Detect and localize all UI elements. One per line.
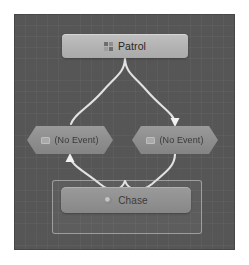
edge-patrol-to-event-right [125, 58, 175, 124]
event-icon [41, 137, 50, 144]
event-icon [146, 137, 155, 144]
graph-node-chase-selection-frame: Chase [52, 180, 202, 234]
screenshot-root: Patrol (No Event) (No Event) Chase [0, 0, 249, 265]
arrowhead-up-event-left [66, 153, 75, 162]
graph-node-patrol[interactable]: Patrol [62, 34, 188, 58]
graph-node-chase-label: Chase [118, 195, 147, 206]
state-machine-graph-canvas[interactable]: Patrol (No Event) (No Event) Chase [14, 14, 235, 250]
grid-icon [104, 42, 113, 51]
sphere-icon [104, 196, 113, 205]
graph-node-event-left[interactable]: (No Event) [27, 126, 113, 154]
graph-node-chase[interactable]: Chase [61, 187, 191, 213]
graph-node-event-right[interactable]: (No Event) [132, 126, 218, 154]
graph-node-event-left-label: (No Event) [54, 135, 98, 145]
graph-node-event-right-label: (No Event) [159, 135, 203, 145]
arrowhead-down-event-right [171, 118, 180, 127]
graph-node-patrol-label: Patrol [118, 40, 146, 52]
edge-event-left-to-patrol [71, 58, 125, 124]
